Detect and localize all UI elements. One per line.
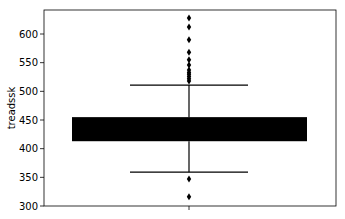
outlier-marker — [187, 24, 191, 31]
outlier-marker — [187, 49, 191, 56]
y-tick-label: 450 — [19, 115, 38, 126]
y-tick-label: 300 — [19, 201, 38, 212]
plot-area — [72, 14, 307, 210]
outlier-marker — [187, 176, 191, 183]
y-tick-label: 600 — [19, 29, 38, 40]
y-tick-label: 400 — [19, 143, 38, 154]
outlier-marker — [187, 56, 191, 63]
outlier-marker — [187, 36, 191, 43]
y-tick-label: 550 — [19, 57, 38, 68]
outlier-marker — [187, 14, 191, 21]
y-tick-label: 500 — [19, 86, 38, 97]
box-plot-chart: 300350400450500550600 treadssk — [0, 0, 345, 219]
y-axis-label: treadssk — [6, 86, 17, 129]
y-tick-label: 350 — [19, 172, 38, 183]
outlier-marker — [187, 193, 191, 200]
y-axis-ticks: 300350400450500550600 — [19, 29, 44, 212]
box-iqr — [72, 117, 307, 141]
